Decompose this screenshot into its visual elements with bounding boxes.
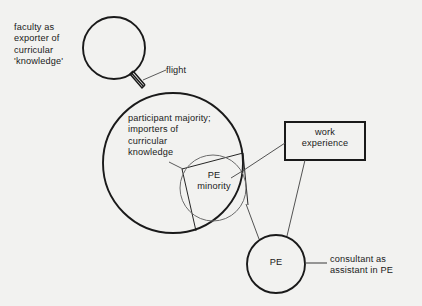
consultant-label: consultant as assistant in PE — [330, 254, 393, 277]
diagram-canvas: faculty as exporter of curricular 'knowl… — [0, 0, 422, 306]
work-experience-label: work experience — [289, 127, 361, 150]
majority-leader-line — [169, 162, 183, 169]
participant-majority-label: participant majority; importers of curri… — [128, 113, 211, 159]
flight-connector-bracket — [131, 73, 144, 87]
work-experience-to-pe — [287, 160, 305, 236]
pe-minority-label: PE minority — [190, 170, 238, 193]
pe-label: PE — [252, 257, 300, 268]
work-experience-to-wedge — [244, 143, 285, 170]
flight-label: flight — [166, 65, 186, 76]
faculty-circle — [83, 17, 145, 79]
flight-leader-line — [143, 70, 166, 80]
participant-to-pe — [246, 204, 259, 239]
faculty-label: faculty as exporter of curricular 'knowl… — [14, 22, 63, 68]
